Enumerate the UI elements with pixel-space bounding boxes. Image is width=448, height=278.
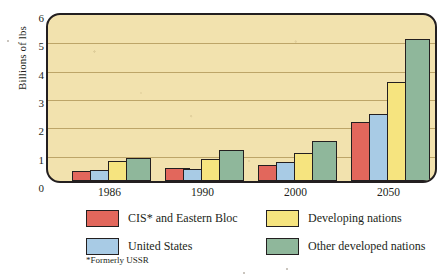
legend-swatch: [266, 238, 299, 255]
chart-legend: CIS* and Eastern BlocUnited StatesDevelo…: [0, 208, 448, 270]
gridline: [48, 43, 435, 44]
bar: [405, 39, 430, 181]
bar: [219, 150, 244, 181]
bar: [312, 141, 337, 181]
legend-item: United States: [86, 238, 192, 255]
plot-inner: [48, 15, 435, 181]
legend-item: Developing nations: [266, 210, 402, 227]
scan-speck: [7, 40, 9, 42]
y-tick-label: 4: [24, 70, 44, 80]
legend-swatch: [266, 210, 299, 227]
legend-item: CIS* and Eastern Bloc: [86, 210, 238, 227]
y-tick-label: 3: [24, 98, 44, 108]
x-axis-labels: 1986199020002050: [46, 186, 437, 202]
gridline: [48, 72, 435, 73]
y-tick-label: 5: [24, 41, 44, 51]
x-tick-label: 2050: [335, 186, 442, 198]
legend-label: CIS* and Eastern Bloc: [128, 211, 238, 226]
bar: [126, 158, 151, 181]
y-axis-ticks: 0123456: [24, 8, 44, 190]
y-tick-label: 1: [24, 155, 44, 165]
scan-speck: [243, 272, 245, 274]
legend-item: Other developed nations: [266, 238, 425, 255]
y-tick-label: 2: [24, 126, 44, 136]
legend-swatch: [86, 238, 119, 255]
x-tick-label: 2000: [242, 186, 349, 198]
legend-swatch: [86, 210, 119, 227]
x-tick-label: 1986: [56, 186, 163, 198]
legend-label: Other developed nations: [308, 239, 425, 254]
legend-footnote: *Formerly USSR: [86, 255, 149, 265]
x-tick-label: 1990: [149, 186, 256, 198]
legend-label: United States: [128, 239, 192, 254]
plot-area: [46, 13, 437, 183]
gridline: [48, 100, 435, 101]
legend-label: Developing nations: [308, 211, 402, 226]
y-tick-label: 6: [24, 13, 44, 23]
y-tick-label: 0: [24, 183, 44, 193]
bar-chart-figure: Billions of lbs 0123456 1986199020002050…: [0, 0, 448, 278]
